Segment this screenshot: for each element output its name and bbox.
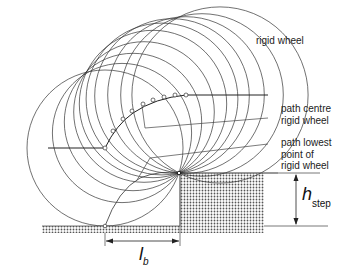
l-subscript: b xyxy=(143,256,149,267)
label-path-lowest: path lowest point of rigid wheel xyxy=(281,137,332,172)
centre-path-line xyxy=(48,95,268,148)
step-corner-marker xyxy=(177,171,181,175)
label-rigid-wheel: rigid wheel xyxy=(256,35,304,47)
label-path-lowest-line3: rigid wheel xyxy=(281,160,332,172)
label-path-centre: path centre rigid wheel xyxy=(281,103,331,126)
h-step-arrow-top xyxy=(294,174,299,181)
h-step-arrow-bottom xyxy=(294,218,299,225)
lb-arrow-left xyxy=(106,239,113,244)
label-path-centre-line2: rigid wheel xyxy=(281,115,331,127)
lowest-point-marker xyxy=(103,224,107,228)
diagram-canvas: rigid wheel path centre rigid wheel path… xyxy=(0,0,346,270)
lowest-point-path xyxy=(105,172,179,226)
h-subscript: step xyxy=(312,198,331,209)
label-h-step: hstep xyxy=(302,184,331,205)
leader-path-centre xyxy=(142,106,268,128)
h-symbol: h xyxy=(302,184,312,204)
label-path-lowest-line1: path lowest xyxy=(281,137,332,149)
label-path-centre-line1: path centre xyxy=(281,103,331,115)
label-lb: lb xyxy=(139,244,149,265)
lb-arrow-right xyxy=(172,239,179,244)
step-hatch xyxy=(180,173,264,233)
label-path-lowest-line2: point of xyxy=(281,149,332,161)
